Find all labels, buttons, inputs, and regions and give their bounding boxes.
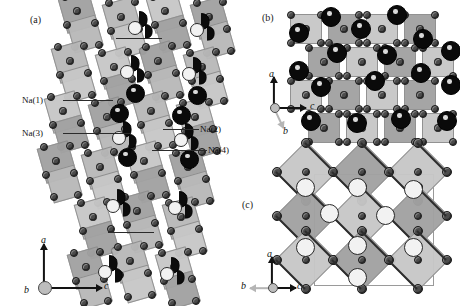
oxygen-atom-inner	[177, 213, 184, 220]
oxygen-atom-inner	[378, 25, 385, 32]
sodium-atom-full	[180, 150, 199, 169]
annotation-na3-label: Na(3)	[22, 128, 43, 138]
oxygen-atom	[355, 11, 363, 19]
oxygen-atom-inner	[126, 257, 133, 264]
axis-label-a: a	[267, 248, 272, 259]
oxygen-atom	[363, 39, 371, 47]
oxygen-atom	[317, 105, 325, 113]
oxygen-atom-inner	[358, 256, 366, 264]
axis-label-b: b	[283, 125, 288, 136]
axis-origin	[38, 281, 52, 295]
oxygen-atom	[335, 72, 343, 80]
oxygen-atom	[393, 77, 401, 85]
sodium-partial-site	[182, 67, 196, 81]
oxygen-atom-inner	[140, 157, 147, 164]
oxygen-atom-inner	[414, 256, 422, 264]
oxygen-atom	[373, 110, 381, 118]
oxygen-atom	[449, 138, 457, 146]
crystal-structure-figure: (a) (b) (c) Na(1) Na(3) Na(2) Na(4) a b …	[0, 0, 460, 306]
annotation-na4-label: Na(4)	[208, 145, 229, 155]
annotation-na2-label: Na(2)	[200, 124, 221, 134]
sodium-atom-full	[289, 23, 309, 43]
sodium-partial-site	[98, 265, 112, 279]
oxygen-atom	[335, 110, 343, 118]
sodium-atom-full	[351, 19, 371, 39]
oxygen-atom	[80, 299, 89, 306]
axis-label-b: b	[24, 284, 29, 295]
oxygen-atom	[199, 247, 208, 256]
oxygen-atom-inner	[358, 168, 366, 176]
sodium-atom-full	[321, 7, 341, 27]
sodium-atom-full	[437, 111, 457, 131]
sodium-atom-full	[110, 104, 129, 123]
oxygen-atom	[401, 39, 409, 47]
sodium-partial-site	[160, 267, 174, 281]
oxygen-atom	[343, 72, 351, 80]
sodium-atom-full	[411, 63, 431, 83]
oxygen-atom-inner	[320, 124, 327, 131]
annotation-na2-leader	[163, 129, 199, 130]
panel-a-structure	[60, 0, 230, 306]
oxygen-atom	[325, 105, 333, 113]
sodium-atom-full	[387, 5, 407, 25]
oxygen-atom-inner	[302, 256, 310, 264]
sodium-atom-full	[311, 77, 331, 97]
oxygen-atom	[168, 299, 177, 306]
sodium-atom-partial	[320, 204, 339, 223]
oxygen-atom-inner	[340, 91, 347, 98]
oxygen-atom-inner	[191, 113, 198, 120]
oxygen-atom	[373, 138, 381, 146]
oxygen-atom-inner	[302, 91, 309, 98]
oxygen-atom	[363, 105, 371, 113]
panel-c-structure	[296, 158, 460, 306]
sodium-atom-full	[188, 86, 207, 105]
annotation-na1-leader	[63, 100, 113, 101]
oxygen-atom-inner	[414, 168, 422, 176]
panel-label-a: (a)	[30, 14, 41, 25]
oxygen-atom	[104, 297, 113, 306]
oxygen-atom	[431, 105, 439, 113]
oxygen-atom	[381, 138, 389, 146]
sodium-partial-site	[128, 21, 142, 35]
oxygen-atom-inner	[161, 7, 168, 14]
oxygen-atom-inner	[82, 263, 89, 270]
oxygen-atom-inner	[302, 168, 310, 176]
sodium-atom-partial	[348, 178, 367, 197]
oxygen-atom-inner	[73, 7, 80, 14]
oxygen-atom-inner	[396, 58, 403, 65]
oxygen-atom-inner	[59, 107, 66, 114]
axis-label-c: c	[310, 100, 314, 111]
oxygen-atom-inner	[434, 58, 441, 65]
oxygen-atom	[227, 47, 236, 56]
oxygen-atom-inner	[378, 91, 385, 98]
sodium-atom-partial	[348, 268, 367, 287]
oxygen-atom-inner	[154, 57, 161, 64]
sodium-partial-site	[120, 65, 134, 79]
axis-label-c: c	[104, 280, 108, 291]
oxygen-atom-inner	[358, 212, 366, 220]
oxygen-atom	[393, 39, 401, 47]
oxygen-atom-inner	[52, 157, 59, 164]
sodium-atom-full	[441, 75, 460, 95]
oxygen-atom-inner	[302, 212, 310, 220]
sodium-partial-site	[190, 23, 204, 37]
sodium-atom-full	[365, 71, 385, 91]
oxygen-atom	[431, 77, 439, 85]
sodium-atom-full	[347, 113, 367, 133]
oxygen-atom	[355, 39, 363, 47]
sodium-atom-full	[126, 84, 145, 103]
oxygen-atom	[206, 197, 215, 206]
sodium-atom-partial	[348, 236, 367, 255]
axis-label-a: a	[41, 234, 46, 245]
axis-origin	[268, 283, 278, 293]
axis-origin	[270, 103, 280, 113]
panel-label-b: (b)	[262, 12, 274, 23]
sodium-atom-partial	[404, 180, 423, 199]
axis-label-b: b	[241, 280, 246, 291]
oxygen-atom-inner	[358, 58, 365, 65]
axis-label-a: a	[269, 68, 274, 79]
axis-label-c: c	[297, 280, 301, 291]
sodium-atom-partial	[376, 206, 395, 225]
panel-b-structure	[300, 10, 458, 145]
sodium-atom-full	[441, 41, 460, 61]
